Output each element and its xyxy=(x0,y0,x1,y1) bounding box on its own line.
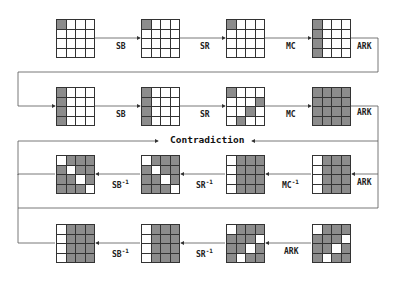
inactive-byte-cell xyxy=(246,98,255,107)
inactive-byte-cell xyxy=(246,49,255,58)
active-byte-cell xyxy=(161,225,170,234)
active-byte-cell xyxy=(76,166,85,175)
inactive-byte-cell xyxy=(246,20,255,29)
active-byte-cell xyxy=(246,185,255,194)
state-grid xyxy=(141,155,180,194)
inactive-byte-cell xyxy=(256,20,265,29)
active-byte-cell xyxy=(142,88,151,97)
active-byte-cell xyxy=(313,107,322,116)
active-byte-cell xyxy=(67,254,76,263)
active-byte-cell xyxy=(323,175,332,184)
active-byte-cell xyxy=(227,244,236,253)
active-byte-cell xyxy=(342,107,351,116)
op-label-ark: ARK xyxy=(284,247,298,256)
active-byte-cell xyxy=(256,98,265,107)
active-byte-cell xyxy=(152,156,161,165)
active-byte-cell xyxy=(332,254,341,263)
inactive-byte-cell xyxy=(57,254,66,263)
inactive-byte-cell xyxy=(67,49,76,58)
active-byte-cell xyxy=(57,175,66,184)
active-byte-cell xyxy=(161,185,170,194)
state-grid xyxy=(226,224,265,263)
active-byte-cell xyxy=(152,235,161,244)
inactive-byte-cell xyxy=(332,39,341,48)
op-label-sb: SB xyxy=(116,110,126,119)
active-byte-cell xyxy=(237,166,246,175)
active-byte-cell xyxy=(313,39,322,48)
op-label-ark: ARK xyxy=(357,42,371,51)
inactive-byte-cell xyxy=(152,20,161,29)
contradiction-label: Contradiction xyxy=(170,134,244,145)
inactive-byte-cell xyxy=(227,185,236,194)
state-grid xyxy=(141,224,180,263)
inactive-byte-cell xyxy=(67,39,76,48)
inactive-byte-cell xyxy=(161,30,170,39)
active-byte-cell xyxy=(57,166,66,175)
active-byte-cell xyxy=(342,166,351,175)
active-byte-cell xyxy=(142,98,151,107)
active-byte-cell xyxy=(171,166,180,175)
inactive-byte-cell xyxy=(67,20,76,29)
active-byte-cell xyxy=(76,244,85,253)
inactive-byte-cell xyxy=(67,107,76,116)
inactive-byte-cell xyxy=(237,107,246,116)
active-byte-cell xyxy=(323,166,332,175)
inactive-byte-cell xyxy=(342,235,351,244)
active-byte-cell xyxy=(256,185,265,194)
active-byte-cell xyxy=(76,156,85,165)
active-byte-cell xyxy=(313,235,322,244)
inactive-byte-cell xyxy=(246,88,255,97)
state-grid xyxy=(312,87,351,126)
inactive-byte-cell xyxy=(76,20,85,29)
inactive-byte-cell xyxy=(161,107,170,116)
inactive-byte-cell xyxy=(86,20,95,29)
inactive-byte-cell xyxy=(152,39,161,48)
active-byte-cell xyxy=(342,117,351,126)
active-byte-cell xyxy=(332,88,341,97)
active-byte-cell xyxy=(67,185,76,194)
inactive-byte-cell xyxy=(152,49,161,58)
active-byte-cell xyxy=(161,166,170,175)
inactive-byte-cell xyxy=(256,49,265,58)
state-grid xyxy=(56,224,95,263)
inactive-byte-cell xyxy=(227,117,236,126)
op-label-sr: SR xyxy=(200,110,210,119)
active-byte-cell xyxy=(342,88,351,97)
inactive-byte-cell xyxy=(256,39,265,48)
active-byte-cell xyxy=(237,117,246,126)
active-byte-cell xyxy=(171,244,180,253)
active-byte-cell xyxy=(342,175,351,184)
active-byte-cell xyxy=(256,166,265,175)
inactive-byte-cell xyxy=(142,225,151,234)
inactive-byte-cell xyxy=(161,98,170,107)
inactive-byte-cell xyxy=(227,166,236,175)
inactive-byte-cell xyxy=(76,98,85,107)
active-byte-cell xyxy=(171,156,180,165)
active-byte-cell xyxy=(86,156,95,165)
active-byte-cell xyxy=(161,156,170,165)
inactive-byte-cell xyxy=(152,98,161,107)
active-byte-cell xyxy=(152,254,161,263)
op-label-sr: SR xyxy=(200,42,210,51)
inactive-byte-cell xyxy=(237,20,246,29)
inactive-byte-cell xyxy=(142,235,151,244)
inactive-byte-cell xyxy=(171,117,180,126)
inactive-byte-cell xyxy=(171,107,180,116)
active-byte-cell xyxy=(237,235,246,244)
inactive-byte-cell xyxy=(237,88,246,97)
active-byte-cell xyxy=(142,107,151,116)
inactive-byte-cell xyxy=(76,49,85,58)
active-byte-cell xyxy=(332,117,341,126)
active-byte-cell xyxy=(57,98,66,107)
active-byte-cell xyxy=(57,88,66,97)
op-label-ark: ARK xyxy=(357,108,371,117)
active-byte-cell xyxy=(323,185,332,194)
state-grid xyxy=(141,87,180,126)
inactive-byte-cell xyxy=(227,175,236,184)
truncated-differential-diagram: SB SR MC ARK SB SR MC ARK Contradiction … xyxy=(0,0,394,281)
inactive-byte-cell xyxy=(342,30,351,39)
state-grid xyxy=(141,19,180,58)
inactive-byte-cell xyxy=(256,117,265,126)
inactive-byte-cell xyxy=(323,30,332,39)
active-byte-cell xyxy=(152,244,161,253)
